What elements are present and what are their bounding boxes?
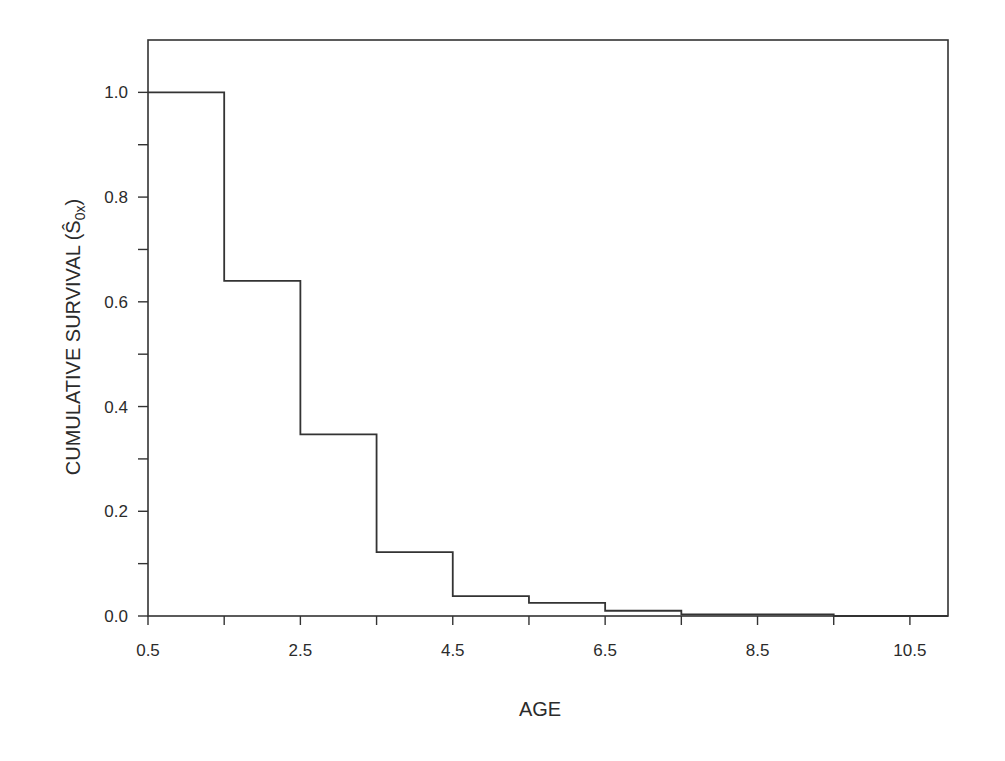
x-axis-ticks: 0.52.54.56.58.510.5 xyxy=(136,616,926,660)
y-axis-symbol: Ŝ xyxy=(62,220,84,233)
y-axis-title-text: CUMULATIVE SURVIVAL ( xyxy=(62,233,84,475)
x-axis-title: AGE xyxy=(519,698,561,720)
y-tick-label: 1.0 xyxy=(104,83,128,102)
y-tick-label: 0.8 xyxy=(104,188,128,207)
survival-step-chart: 0.00.20.40.60.81.0 0.52.54.56.58.510.5 A… xyxy=(0,0,1005,761)
y-tick-label: 0.2 xyxy=(104,502,128,521)
y-tick-label: 0.0 xyxy=(104,607,128,626)
x-tick-label: 6.5 xyxy=(593,641,617,660)
plot-frame xyxy=(148,40,948,616)
y-axis-ticks: 0.00.20.40.60.81.0 xyxy=(104,83,148,626)
y-tick-label: 0.6 xyxy=(104,293,128,312)
survival-step-line xyxy=(148,92,948,616)
x-tick-label: 4.5 xyxy=(441,641,465,660)
y-tick-label: 0.4 xyxy=(104,398,128,417)
x-tick-label: 8.5 xyxy=(746,641,770,660)
x-tick-label: 0.5 xyxy=(136,641,160,660)
y-axis-title: CUMULATIVE SURVIVAL (Ŝ0x) xyxy=(62,199,88,475)
y-axis-subscript: 0x xyxy=(72,205,88,220)
x-tick-label: 10.5 xyxy=(893,641,926,660)
x-tick-label: 2.5 xyxy=(289,641,313,660)
y-axis-title-close: ) xyxy=(62,199,84,206)
